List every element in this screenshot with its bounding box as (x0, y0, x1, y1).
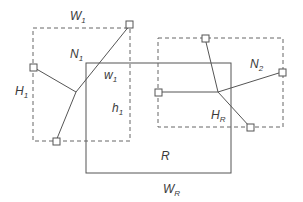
net-n2-bounding-box (158, 38, 283, 127)
pin-square-icon (202, 35, 209, 42)
label-r-region: R (161, 149, 170, 163)
pin-square-icon (53, 138, 60, 145)
net-bounding-box-diagram: W1 N1 w1 H1 h1 N2 HR R WR (0, 0, 303, 202)
pin-square-icon (155, 89, 162, 96)
label-h1-overlap-height: h1 (112, 101, 123, 117)
pin-square-icon (126, 21, 133, 28)
label-wr-width: WR (163, 182, 180, 198)
label-hr-height: HR (211, 108, 226, 124)
label-w1-overlap-width: w1 (104, 68, 117, 84)
label-w1-width: W1 (70, 9, 86, 25)
label-n1-net: N1 (70, 47, 83, 63)
pin-square-icon (30, 64, 37, 71)
label-h1-height: H1 (15, 84, 28, 100)
pin-square-icon (247, 124, 254, 131)
net-n2-wires (158, 38, 282, 127)
pin-square-icon (279, 69, 286, 76)
net-n1-pins (30, 21, 133, 145)
label-n2-net: N2 (250, 57, 264, 73)
